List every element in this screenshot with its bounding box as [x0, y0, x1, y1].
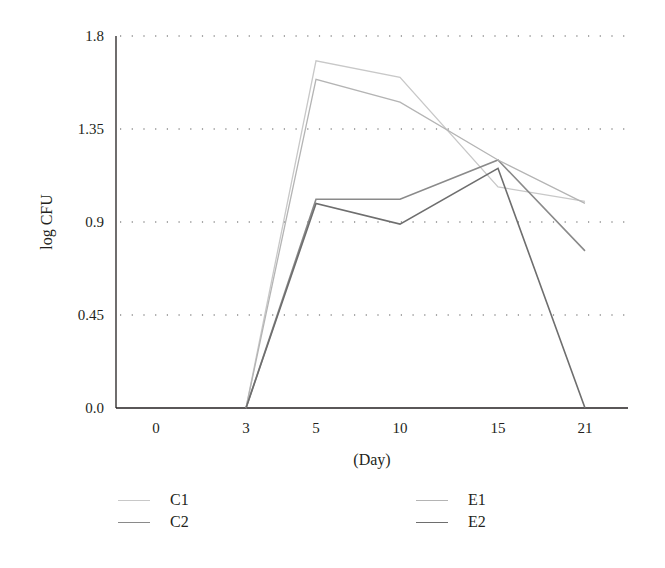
legend-label-c2: C2 [170, 513, 189, 531]
x-axis-title: (Day) [353, 451, 390, 469]
y-tick-label: 1.8 [85, 28, 104, 44]
legend-swatch-e1 [416, 500, 448, 501]
legend-item-c2: C2 [118, 512, 189, 532]
legend-label-e1: E1 [468, 491, 486, 509]
y-tick-label: 1.35 [78, 121, 104, 137]
x-tick-label: 3 [242, 420, 250, 436]
x-tick-label: 0 [152, 420, 160, 436]
series-line-e1 [246, 79, 585, 408]
legend-swatch-c2 [118, 522, 150, 523]
legend-item-e1: E1 [416, 490, 486, 510]
x-tick-label: 5 [312, 420, 320, 436]
series-line-c2 [246, 160, 585, 408]
y-tick-label: 0.9 [85, 214, 104, 230]
x-tick-labels: 035101521 [152, 420, 592, 436]
legend-swatch-c1 [118, 500, 150, 501]
legend-swatch-e2 [416, 522, 448, 523]
legend-item-e2: E2 [416, 512, 486, 532]
y-axis-title: log CFU [38, 194, 56, 250]
series-line-c1 [246, 61, 585, 408]
y-tick-label: 0.0 [85, 400, 104, 416]
series-line-e2 [246, 168, 585, 408]
line-chart: 0.00.450.91.351.8 035101521 log CFU (Day… [0, 0, 665, 568]
x-tick-label: 15 [491, 420, 506, 436]
gridlines [120, 36, 628, 315]
y-tick-label: 0.45 [78, 307, 104, 323]
x-tick-label: 21 [578, 420, 593, 436]
legend-label-e2: E2 [468, 513, 486, 531]
x-tick-label: 10 [393, 420, 408, 436]
legend-label-c1: C1 [170, 491, 189, 509]
series-lines [246, 61, 585, 408]
legend-item-c1: C1 [118, 490, 189, 510]
y-tick-labels: 0.00.450.91.351.8 [78, 28, 104, 416]
axes [116, 36, 628, 408]
